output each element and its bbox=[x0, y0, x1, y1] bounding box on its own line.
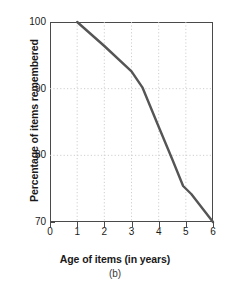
data-line-series-1 bbox=[77, 22, 213, 222]
panel-caption: (b) bbox=[0, 268, 230, 279]
x-tick-label-3: 3 bbox=[122, 226, 142, 238]
y-tick-label-100: 100 bbox=[16, 17, 46, 27]
y-tick-label-80: 80 bbox=[16, 150, 46, 160]
y-tick-label-90: 90 bbox=[16, 84, 46, 94]
x-tick-label-0: 0 bbox=[40, 226, 60, 238]
x-tick-label-6: 6 bbox=[203, 226, 223, 238]
plot-canvas bbox=[50, 22, 213, 222]
x-tick-label-2: 2 bbox=[94, 226, 114, 238]
x-axis-title: Age of items (in years) bbox=[0, 253, 230, 265]
grid-vertical bbox=[77, 22, 186, 222]
chart-figure: Percentage of items remembered 100 90 80… bbox=[0, 0, 230, 288]
x-tick-label-1: 1 bbox=[67, 226, 87, 238]
x-tick-label-5: 5 bbox=[176, 226, 196, 238]
x-axis-tick-labels: 0 1 2 3 4 5 6 bbox=[50, 226, 213, 240]
plot-area bbox=[50, 22, 213, 222]
x-tick-label-4: 4 bbox=[149, 226, 169, 238]
y-axis-tick-labels: 100 90 80 70 bbox=[14, 22, 46, 222]
